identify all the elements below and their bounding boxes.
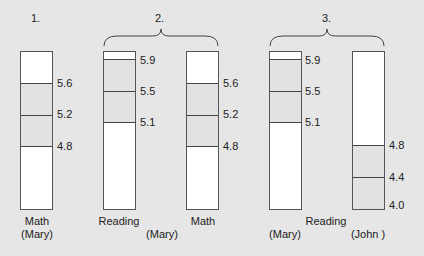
tick-label: 5.5 [140,85,155,97]
grade-line [270,91,301,92]
bar-student-label: (Mary) [14,228,60,241]
grade-line [353,177,384,178]
bar-math-mary-panel1 [20,51,53,210]
tick-label: 5.5 [305,85,320,97]
panel-1-number: 1. [31,12,40,24]
bar-reading-john-panel3 [352,51,385,210]
grade-line [21,146,52,147]
grade-line [187,115,218,116]
bar-subject-label: Reading [94,215,144,228]
tick-label: 5.1 [140,116,155,128]
bar-subject-label: Math [180,215,226,228]
tick-label: 5.1 [305,116,320,128]
tick-label: 4.0 [389,199,404,211]
tick-label: 5.2 [223,108,238,120]
grade-line [270,59,301,60]
grade-line [104,59,135,60]
bar-student-label: (John ) [345,228,391,241]
bar-subject-label: Math [14,215,60,228]
tick-label: 5.2 [57,108,72,120]
panel-2-student-label: (Mary) [137,228,187,241]
bar-reading-mary-panel3 [269,51,302,210]
grade-line [187,146,218,147]
grade-line [104,91,135,92]
tick-label: 5.6 [223,77,238,89]
panel-3-brace [269,28,385,48]
grade-line [104,122,135,123]
panel-3-subject-label: Reading [301,215,351,228]
tick-label: 4.8 [389,139,404,151]
bar-student-label: (Mary) [262,228,308,241]
panel-3-number: 3. [322,12,331,24]
tick-label: 5.9 [305,54,320,66]
bar-reading-mary-panel2 [103,51,136,210]
grade-line [21,83,52,84]
grade-line [353,145,384,146]
tick-label: 4.4 [389,171,404,183]
tick-label: 5.6 [57,77,72,89]
tick-label: 5.9 [140,54,155,66]
panel-2-brace [103,28,219,48]
panel-2-number: 2. [155,12,164,24]
tick-label: 4.8 [57,140,72,152]
grade-line [21,115,52,116]
grade-line [187,83,218,84]
tick-label: 4.8 [223,140,238,152]
bar-math-mary-panel2 [186,51,219,210]
grade-line [270,122,301,123]
